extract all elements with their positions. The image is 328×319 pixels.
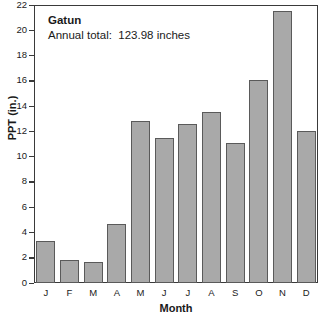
y-tick-label: 18 [16, 49, 27, 60]
x-tick-label: O [247, 287, 271, 298]
bar-december [297, 131, 316, 283]
bar-february [60, 260, 79, 283]
bar-may [131, 121, 150, 283]
chart-annotation: Gatun Annual total: 123.98 inches [48, 13, 190, 43]
bar-january [36, 241, 55, 283]
y-tick-label: 8 [22, 175, 27, 186]
x-tick-label: J [34, 287, 58, 298]
bar-september [226, 143, 245, 283]
y-tick-label: 6 [22, 201, 27, 212]
y-tick-label: 20 [16, 24, 27, 35]
y-tick-label: 2 [22, 251, 27, 262]
station-name: Gatun [48, 13, 190, 28]
y-tick-label: 14 [16, 100, 27, 111]
x-tick-label: D [294, 287, 318, 298]
y-tick-label: 10 [16, 150, 27, 161]
y-tick-label: 16 [16, 74, 27, 85]
bar-march [84, 262, 103, 283]
y-tick-label: 0 [22, 277, 27, 288]
x-tick-label: F [58, 287, 82, 298]
bars-container [34, 5, 318, 283]
bar-august [202, 112, 221, 283]
x-tick-label: N [271, 287, 295, 298]
x-tick-label: M [129, 287, 153, 298]
bar-april [107, 224, 126, 283]
x-tick-label: M [81, 287, 105, 298]
y-tick-label: 12 [16, 125, 27, 136]
annual-total-label: Annual total: 123.98 inches [48, 28, 190, 43]
bar-july [178, 124, 197, 283]
bar-november [273, 11, 292, 283]
x-tick-label: J [176, 287, 200, 298]
y-tick-label: 22 [16, 0, 27, 10]
bar-june [155, 138, 174, 283]
x-tick-label: A [105, 287, 129, 298]
x-tick-label: S [223, 287, 247, 298]
y-tick-label: 4 [22, 226, 27, 237]
bar-october [249, 80, 268, 283]
x-tick-label: A [200, 287, 224, 298]
x-tick-label: J [152, 287, 176, 298]
y-axis-title: PPT (in.) [6, 78, 18, 158]
precipitation-bar-chart: PPT (in.) 0246810121416182022 JFMAMJJASO… [0, 0, 328, 319]
x-axis-title: Month [34, 302, 318, 314]
